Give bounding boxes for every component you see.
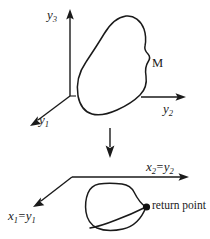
return-point-label: return point (152, 200, 206, 212)
x2-subscript: 2 (152, 166, 156, 176)
x1-rhs-symbol: y (26, 208, 32, 223)
projected-loop-outer (86, 183, 146, 230)
y1-axis-label: y1 (39, 113, 49, 126)
x1-axis-arrowhead (33, 197, 44, 207)
projection-arrowhead (106, 146, 115, 159)
x2-symbol: x (146, 159, 152, 174)
x2-equals-sign: = (156, 160, 164, 174)
x1-subscript: 1 (14, 215, 18, 225)
figure-container: y3 y2 y1 M x2=y2 x1=y1 return point (0, 0, 210, 239)
x1-symbol: x (8, 208, 14, 223)
y3-symbol: y (47, 7, 53, 22)
y2-subscript: 2 (169, 108, 173, 118)
y2-symbol: y (163, 101, 169, 116)
y1-symbol: y (39, 112, 45, 127)
manifold-m-label: M (152, 57, 163, 70)
x1-axis-line (41, 177, 72, 201)
x1-equals-sign: = (18, 209, 26, 223)
projected-loop-group (86, 183, 150, 230)
return-point-dot (143, 203, 150, 210)
x2-equals-y2-label: x2=y2 (146, 160, 174, 173)
x2-rhs-symbol: y (164, 159, 170, 174)
y3-subscript: 3 (53, 14, 57, 24)
projected-loop-tail (90, 207, 146, 228)
manifold-m-curve (77, 16, 149, 115)
x1-rhs-subscript: 1 (32, 215, 36, 225)
projection-arrow-group (106, 128, 115, 158)
y2-axis-label: y2 (163, 102, 173, 115)
y1-subscript: 1 (45, 119, 49, 129)
y3-axis-label: y3 (47, 8, 57, 21)
x2-rhs-subscript: 2 (170, 166, 174, 176)
x1-equals-y1-label: x1=y1 (8, 209, 36, 222)
